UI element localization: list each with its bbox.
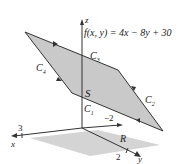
- curve-c1-label: C1: [84, 104, 94, 116]
- y-neg-axis-arrow-icon: [117, 123, 123, 127]
- x-axis-arrow-icon: [11, 133, 17, 138]
- y-neg-tick-label: −2: [104, 114, 114, 123]
- x-tick-label: 3: [18, 124, 23, 133]
- z-axis-arrow-icon: [80, 19, 84, 25]
- y-axis-label: y: [138, 155, 142, 164]
- y-neg-axis: [82, 125, 120, 128]
- z-axis-label: z: [85, 16, 89, 25]
- region-label: R: [120, 134, 126, 144]
- surface-diagram: z f(x, y) = 4x − 8y + 30 C3 C4 C2 C1 S R…: [0, 0, 191, 164]
- curve-c2-label: C2: [145, 95, 155, 107]
- y-tick-label: 2: [116, 153, 121, 162]
- surface-s: [25, 32, 163, 131]
- surface-label: S: [85, 88, 91, 99]
- x-axis-label: x: [11, 140, 15, 149]
- diagram-graphics: [0, 0, 191, 164]
- function-label: f(x, y) = 4x − 8y + 30: [84, 28, 171, 38]
- curve-c4-label: C4: [36, 63, 46, 75]
- curve-c3-label: C3: [90, 51, 100, 63]
